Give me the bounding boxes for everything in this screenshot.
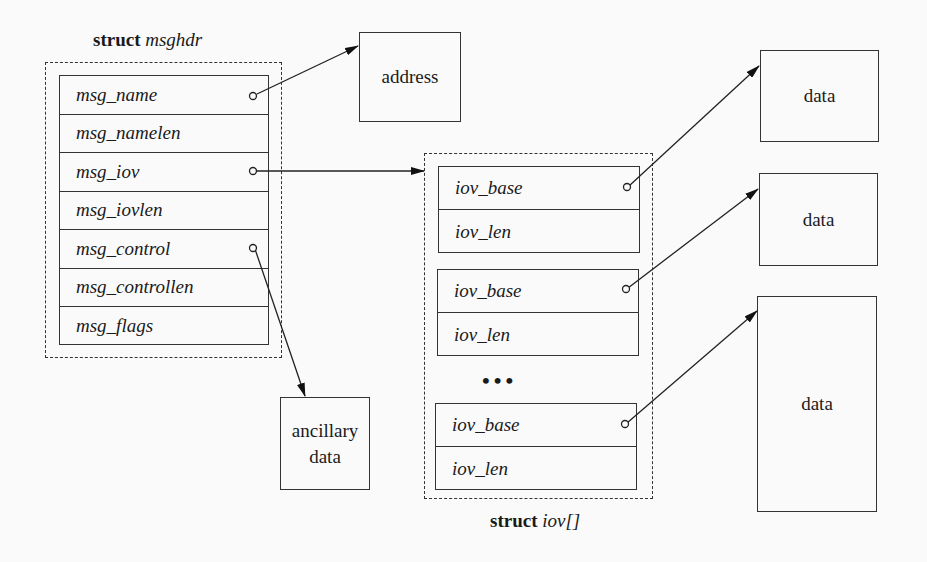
field-label: msg_controllen xyxy=(76,276,194,298)
field-label: msg_namelen xyxy=(76,122,180,144)
ancillary-label-line2: data xyxy=(309,444,341,470)
data-label: data xyxy=(801,391,833,417)
field-msg-flags: msg_flags xyxy=(60,307,268,346)
field-iov-len: iov_len xyxy=(439,210,639,253)
iov-title-name: iov[] xyxy=(542,510,580,531)
data-label: data xyxy=(803,207,835,233)
msghdr-struct: msg_name msg_namelen msg_iov msg_iovlen … xyxy=(59,75,269,345)
iov-entry: iov_base iov_len xyxy=(435,403,637,490)
field-label: iov_base xyxy=(455,177,523,199)
field-iov-base: iov_base xyxy=(438,270,638,313)
msghdr-title-keyword: struct xyxy=(93,29,140,50)
ellipsis: ••• xyxy=(482,368,517,394)
field-label: iov_len xyxy=(455,221,511,243)
field-msg-name: msg_name xyxy=(60,76,268,115)
field-msg-namelen: msg_namelen xyxy=(60,115,268,154)
field-iov-len: iov_len xyxy=(436,447,636,490)
data-buffer-1: data xyxy=(760,50,879,142)
msghdr-title: struct msghdr xyxy=(93,29,202,51)
iov-title: struct iov[] xyxy=(490,510,580,532)
field-iov-base: iov_base xyxy=(439,167,639,210)
field-msg-control: msg_control xyxy=(60,230,268,269)
iov-entry: iov_base iov_len xyxy=(437,269,639,356)
field-msg-iovlen: msg_iovlen xyxy=(60,192,268,231)
field-iov-len: iov_len xyxy=(438,313,638,356)
field-label: msg_name xyxy=(76,84,157,106)
data-buffer-3: data xyxy=(757,296,877,512)
field-iov-base: iov_base xyxy=(436,404,636,447)
field-label: msg_iov xyxy=(76,161,139,183)
data-label: data xyxy=(804,83,836,109)
address-label: address xyxy=(382,64,439,90)
iov-title-keyword: struct xyxy=(490,510,537,531)
field-label: msg_flags xyxy=(76,315,153,337)
field-label: iov_len xyxy=(454,324,510,346)
ancillary-data-box: ancillary data xyxy=(280,397,370,490)
field-label: iov_base xyxy=(452,414,520,436)
field-msg-controllen: msg_controllen xyxy=(60,269,268,308)
msghdr-title-name: msghdr xyxy=(145,29,202,50)
iov-entry: iov_base iov_len xyxy=(438,166,640,253)
field-label: iov_base xyxy=(454,280,522,302)
field-msg-iov: msg_iov xyxy=(60,153,268,192)
data-buffer-2: data xyxy=(759,173,878,266)
field-label: msg_control xyxy=(76,238,170,260)
address-box: address xyxy=(359,32,461,122)
field-label: iov_len xyxy=(452,458,508,480)
ancillary-label-line1: ancillary xyxy=(292,418,358,444)
field-label: msg_iovlen xyxy=(76,199,163,221)
